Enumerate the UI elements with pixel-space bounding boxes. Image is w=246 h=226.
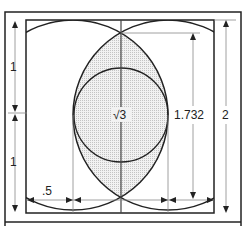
arrow-down-icon	[223, 206, 229, 213]
label-half-width: .5	[42, 184, 52, 198]
arrow-up-icon	[12, 114, 18, 121]
arrow-up-icon	[223, 20, 229, 27]
arrow-left-icon	[169, 197, 176, 203]
arrow-right-icon	[66, 197, 73, 203]
label-total-height: 2	[222, 108, 229, 122]
arrow-up-icon	[190, 33, 196, 40]
arrow-down-icon	[190, 192, 196, 199]
label-upper-half: 1	[10, 60, 17, 74]
label-lens-height: 1.732	[174, 108, 204, 122]
label-root-three: √3	[113, 108, 127, 122]
vesica-diagram: 1 1 .5 √3 1.732 2	[0, 0, 246, 226]
arrow-left-icon	[74, 197, 81, 203]
label-lower-half: 1	[10, 155, 17, 169]
arrow-up-icon	[12, 21, 18, 28]
arrow-right-icon	[161, 197, 168, 203]
arrow-down-icon	[12, 105, 18, 112]
arrow-down-icon	[12, 205, 18, 212]
